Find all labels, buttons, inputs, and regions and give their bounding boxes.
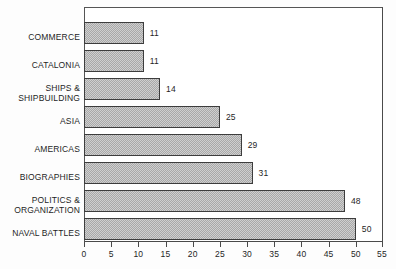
bar-value-label: 50 — [362, 224, 372, 234]
x-axis-tick-label: 35 — [269, 249, 279, 259]
bar-row: AMERICAS29 — [84, 134, 383, 156]
bar-chart: COMMERCE11CATALONIA11SHIPS & SHIPBUILDIN… — [0, 0, 396, 269]
bar-value-label: 11 — [150, 28, 159, 38]
x-axis-tick — [220, 242, 221, 247]
bar-row: POLITICS & ORGANIZATION48 — [84, 190, 383, 212]
x-axis-tick-label: 45 — [324, 249, 334, 259]
x-axis-tick-label: 20 — [188, 249, 198, 259]
category-label: ASIA — [2, 117, 80, 127]
x-axis-tick — [84, 242, 85, 247]
bar-row: COMMERCE11 — [84, 22, 383, 44]
category-label: AMERICAS — [2, 145, 80, 155]
x-axis-tick-label: 40 — [297, 249, 307, 259]
bar-value-label: 14 — [166, 84, 176, 94]
bar-row: NAVAL BATTLES50 — [84, 218, 383, 240]
x-axis-tick-label: 50 — [351, 249, 361, 259]
x-axis-tick — [111, 242, 112, 247]
category-label: POLITICS & ORGANIZATION — [2, 196, 80, 215]
bar-row: SHIPS & SHIPBUILDING14 — [84, 78, 383, 100]
bar-row: ASIA25 — [84, 106, 383, 128]
bar — [84, 78, 160, 100]
bar-row: BIOGRAPHIES31 — [84, 162, 383, 184]
category-label: CATALONIA — [2, 61, 80, 71]
bar-value-label: 25 — [226, 112, 236, 122]
bar-value-label: 11 — [150, 56, 159, 66]
x-axis-tick-label: 5 — [109, 249, 114, 259]
x-axis-tick — [193, 242, 194, 247]
x-axis-tick-label: 30 — [242, 249, 252, 259]
bar — [84, 22, 144, 44]
bar — [84, 218, 356, 240]
x-axis-tick-label: 25 — [215, 249, 225, 259]
x-axis-tick — [329, 242, 330, 247]
bar-value-label: 31 — [259, 168, 269, 178]
category-label: NAVAL BATTLES — [2, 229, 80, 239]
bar — [84, 162, 253, 184]
x-axis-tick — [247, 242, 248, 247]
x-axis-tick — [138, 242, 139, 247]
bar-value-label: 29 — [248, 140, 258, 150]
bar-rows: COMMERCE11CATALONIA11SHIPS & SHIPBUILDIN… — [84, 7, 383, 242]
category-label: COMMERCE — [2, 33, 80, 43]
x-axis-tick-label: 15 — [161, 249, 171, 259]
x-axis-tick-label: 10 — [133, 249, 143, 259]
category-label: SHIPS & SHIPBUILDING — [2, 84, 80, 103]
x-axis-tick — [382, 242, 383, 247]
bar — [84, 134, 242, 156]
x-axis-tick — [274, 242, 275, 247]
x-axis-tick — [356, 242, 357, 247]
bar — [84, 106, 220, 128]
x-axis-tick — [166, 242, 167, 247]
bar — [84, 190, 345, 212]
x-axis-tick-label: 55 — [377, 249, 387, 259]
x-axis-tick — [301, 242, 302, 247]
x-axis: 0510152025303540455055 — [84, 242, 383, 269]
x-axis-tick-label: 0 — [82, 249, 87, 259]
bar-value-label: 48 — [351, 196, 361, 206]
category-label: BIOGRAPHIES — [2, 173, 80, 183]
bar-row: CATALONIA11 — [84, 50, 383, 72]
bar — [84, 50, 144, 72]
